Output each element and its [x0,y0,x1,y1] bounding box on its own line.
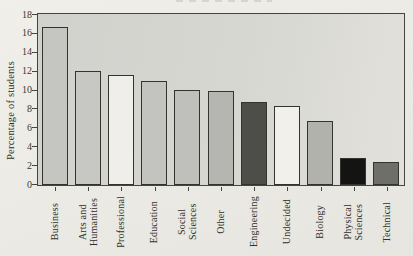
bar-biology [307,121,333,185]
bar-engineering [241,102,267,185]
y-tick-mark [32,14,37,15]
bar-education [141,81,167,185]
y-tick-mark [32,71,37,72]
x-category-label-text: Professional [116,196,127,248]
y-tick-label: 4 [6,141,32,153]
x-category-label-text: Engineering [249,196,260,247]
x-category-label-text: Social Sciences [177,191,198,253]
bar-professional [108,75,134,185]
y-tick-label: 2 [6,160,32,172]
bar-social-sciences [174,90,200,185]
y-tick-label: 12 [6,65,32,77]
x-category-label-text: Physical Sciences [343,204,364,241]
y-tick-mark [32,52,37,53]
y-tick-mark [32,165,37,166]
y-tick-label: 6 [6,122,32,134]
y-tick-mark [32,146,37,147]
y-tick-label: 8 [6,103,32,115]
x-category-label-text: Technical [382,202,393,243]
x-category-label-text: Arts and Humanities [78,198,99,246]
y-tick-mark [32,184,37,185]
x-category-label-text: Education [149,201,160,243]
y-tick-label: 10 [6,84,32,96]
y-tick-mark [32,127,37,128]
bar-arts-and-humanities [75,71,101,185]
bar-other [208,91,234,185]
x-category-label-text: Other [216,210,227,234]
bar-chart: Percentage of students 024681012141618Bu… [0,0,413,256]
x-category-label-text: Biology [315,205,326,239]
y-tick-label: 14 [6,46,32,58]
y-tick-label: 0 [6,179,32,191]
y-tick-mark [32,33,37,34]
plot-area [37,13,405,186]
y-tick-label: 18 [6,9,32,21]
x-category-label: Technical [367,191,407,253]
x-category-label-text: Undecided [282,199,293,244]
y-tick-mark [32,90,37,91]
bar-business [42,27,68,185]
y-tick-mark [32,108,37,109]
bar-physical-sciences [340,158,366,185]
x-category-label-text: Business [50,203,61,240]
y-tick-label: 16 [6,27,32,39]
bar-technical [373,162,399,185]
bar-undecided [274,106,300,185]
cropped-caption-artifact [176,0,272,2]
